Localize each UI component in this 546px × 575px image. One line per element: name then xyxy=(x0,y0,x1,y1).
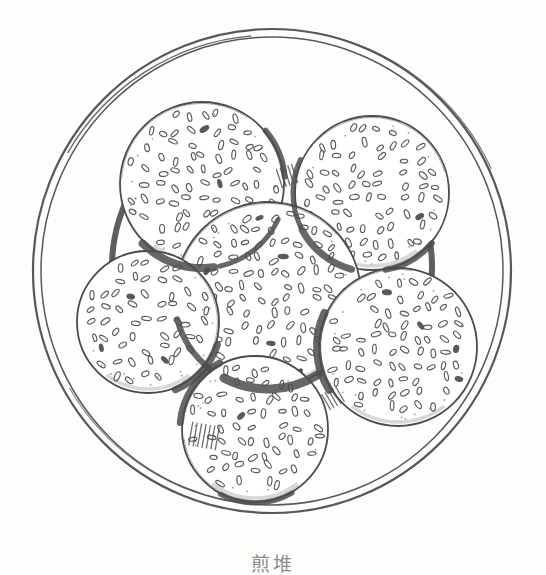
caption: 煎堆 xyxy=(0,555,546,574)
sesame-ball xyxy=(319,268,477,426)
